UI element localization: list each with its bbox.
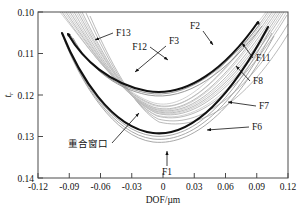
- curve-label-f11: F11: [256, 53, 271, 63]
- x-tick-label: -0.06: [91, 182, 111, 192]
- y-tick-label: 0.11: [18, 49, 35, 59]
- x-tick-label: 0.09: [248, 182, 265, 192]
- tangency-right: [256, 21, 259, 24]
- y-tick-label: 0.12: [17, 91, 34, 101]
- x-tick-label: 0.12: [280, 182, 297, 192]
- x-tick-label: 0.06: [217, 182, 234, 192]
- curve-label-f7: F7: [259, 101, 269, 111]
- chart-figure: 0.10 0.11 0.12 0.13 0.14 -0.12 -0.09 -0.…: [0, 0, 304, 210]
- x-tick-label: -0.03: [122, 182, 142, 192]
- x-tick-labels: -0.12 -0.09 -0.06 -0.03 0 0.03 0.06 0.09…: [28, 182, 296, 192]
- curve-label-f12: F12: [132, 42, 147, 52]
- curve-label-f2: F2: [190, 21, 200, 31]
- x-tick-label: 0.03: [186, 182, 203, 192]
- y-tick-label: 0.13: [17, 132, 34, 142]
- x-tick-label: -0.09: [59, 182, 79, 192]
- y-tick-labels: 0.10 0.11 0.12 0.13 0.14: [17, 8, 34, 184]
- tangency-left: [67, 33, 70, 36]
- y-axis-label: tr: [3, 92, 14, 98]
- curve-label-f13: F13: [116, 28, 131, 38]
- process-window-plot: 0.10 0.11 0.12 0.13 0.14 -0.12 -0.09 -0.…: [0, 0, 304, 210]
- curve-label-f3: F3: [169, 36, 179, 46]
- y-axis-label-group: tr: [3, 92, 14, 98]
- curve-label-f6: F6: [252, 122, 262, 132]
- curve-label-f1: F1: [162, 167, 172, 177]
- curve-label-f8: F8: [253, 76, 263, 86]
- x-tick-label: 0: [161, 182, 166, 192]
- y-tick-label: 0.10: [17, 8, 34, 18]
- x-axis-label: DOF/µm: [146, 195, 181, 205]
- x-tick-label: -0.12: [28, 182, 48, 192]
- overlap-window-label: 重合窗口: [68, 138, 108, 149]
